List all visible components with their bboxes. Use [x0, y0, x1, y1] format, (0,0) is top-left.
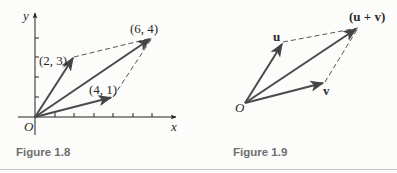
dashed-edge [74, 38, 152, 57]
figure-caption: Figure 1.9 [233, 146, 287, 158]
point-label-2-3: (2, 3) [39, 53, 67, 68]
point-label-4-1: (4, 1) [89, 82, 117, 97]
vector-6-4 [35, 39, 150, 117]
vector-label-u-plus-v: (u + v) [349, 9, 385, 24]
vector-u-plus-v [245, 29, 356, 103]
dashed-edge [113, 38, 152, 97]
divider [0, 169, 397, 170]
origin-label: O [235, 100, 245, 115]
figure-caption: Figure 1.8 [16, 146, 70, 158]
dashed-edge [325, 28, 358, 82]
point-label-6-4: (6, 4) [130, 21, 158, 36]
vector-label-u: u [273, 29, 280, 44]
x-axis-label: x [170, 119, 177, 134]
vector-label-v: v [323, 83, 330, 98]
origin-label: O [24, 119, 34, 134]
figure-1-9-diagram: u v (u + v) O [235, 9, 385, 115]
y-axis-label: y [21, 8, 29, 23]
